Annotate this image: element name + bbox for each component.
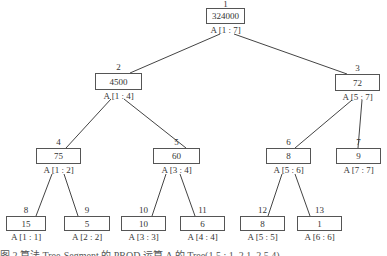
node-range-label: A [1 : 1]: [0, 233, 56, 242]
node-range-label: A [1 : 7]: [196, 26, 255, 35]
node-index: 12: [240, 206, 285, 215]
node-value-box: 60: [153, 148, 200, 164]
node-value-box: 72: [335, 74, 380, 91]
node-index: 4: [36, 138, 81, 147]
node-value-box: 8: [240, 216, 285, 231]
node-index: 5: [153, 138, 200, 147]
node-range-label: A [5 : 5]: [232, 233, 293, 242]
node-value-box: 4500: [95, 73, 142, 90]
node-value-box: 324000: [206, 8, 245, 24]
node-index: 13: [297, 206, 342, 215]
node-index: 7: [336, 138, 381, 147]
node-range-label: A [3 : 3]: [113, 233, 174, 242]
node-index: 6: [266, 138, 311, 147]
edge-1-3: [234, 34, 347, 74]
node-value-box: 10: [121, 216, 166, 231]
node-value-box: 8: [266, 148, 311, 164]
node-index: 3: [335, 64, 380, 73]
node-range-label: A [2 : 2]: [57, 233, 117, 242]
node-index: 10: [121, 206, 166, 215]
node-range-label: A [1 : 2]: [28, 166, 89, 175]
node-range-label: A [7 : 7]: [328, 166, 387, 175]
node-index: 9: [64, 206, 110, 215]
node-value-box: 75: [36, 148, 81, 164]
node-range-label: A [4 : 4]: [172, 233, 233, 242]
node-index: 2: [95, 63, 142, 72]
node-value-box: 9: [336, 148, 381, 164]
node-index: 8: [6, 206, 46, 215]
node-range-label: A [5 : 6]: [258, 166, 319, 175]
node-value-box: 1: [297, 216, 342, 231]
node-value-box: 5: [64, 216, 110, 231]
node-range-label: A [1 : 4]: [88, 92, 149, 101]
node-index: 11: [180, 206, 225, 215]
node-value-box: 6: [180, 216, 225, 231]
node-value-box: 15: [6, 216, 46, 231]
truncated-caption: 图 2 算法 Tree-Segment 的 PROD 运算 A 的 Tree(1…: [0, 250, 387, 256]
node-range-label: A [5 : 7]: [327, 93, 387, 102]
node-range-label: A [6 : 6]: [289, 233, 350, 242]
node-range-label: A [3 : 4]: [146, 166, 207, 175]
edge-1-2: [130, 34, 220, 73]
